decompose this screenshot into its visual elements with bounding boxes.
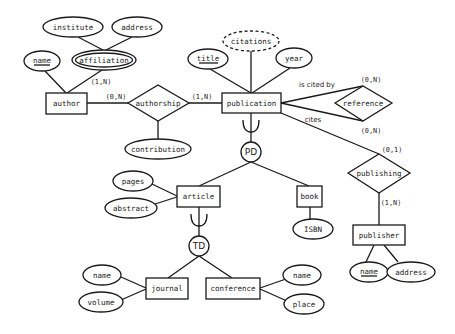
cardinality-publication-publishing: (0,1) — [382, 146, 402, 154]
entity-publication: publication — [222, 93, 281, 113]
attribute-publisher-address: address — [387, 262, 435, 282]
attribute-title-key: title — [188, 49, 228, 69]
connector-lines — [45, 37, 398, 301]
svg-text:publishing: publishing — [356, 169, 401, 178]
entity-article: article — [177, 186, 220, 207]
relationship-reference: reference — [335, 86, 392, 121]
attribute-journal-name: name — [83, 265, 121, 285]
entity-journal: journal — [146, 278, 188, 299]
svg-text:publication: publication — [227, 99, 277, 108]
attribute-affiliation-multivalued: affiliation — [72, 50, 136, 70]
role-label-cites: cites — [305, 116, 322, 124]
attribute-publisher-name-key: name — [350, 262, 388, 282]
svg-text:address: address — [121, 23, 153, 32]
svg-text:publisher: publisher — [359, 231, 400, 240]
svg-text:name: name — [293, 271, 312, 280]
relationship-authorship: authorship — [128, 85, 189, 121]
entity-author: author — [46, 93, 87, 114]
entity-conference: conference — [206, 278, 260, 299]
svg-text:pages: pages — [122, 177, 145, 186]
attribute-conference-name: name — [283, 265, 321, 285]
svg-text:address: address — [395, 268, 427, 277]
svg-text:citations: citations — [231, 37, 272, 46]
svg-text:ISBN: ISBN — [304, 225, 322, 234]
svg-text:place: place — [293, 300, 316, 309]
attribute-institute: institute — [43, 17, 103, 37]
svg-text:TD: TD — [192, 241, 205, 251]
attribute-affiliation-address: address — [112, 17, 162, 37]
svg-text:year: year — [285, 54, 304, 63]
svg-text:journal: journal — [151, 284, 183, 293]
attribute-author-name-key: name — [24, 51, 60, 71]
attribute-citations-derived: citations — [223, 31, 279, 51]
svg-text:name: name — [93, 271, 112, 280]
cardinality-reference-cited-by: (0,N) — [361, 76, 381, 84]
cardinality-author-authorship: (0,N) — [106, 93, 126, 101]
attribute-pages: pages — [113, 171, 153, 191]
svg-text:book: book — [300, 192, 319, 201]
entity-book: book — [297, 186, 322, 207]
svg-text:reference: reference — [343, 99, 384, 108]
svg-text:author: author — [53, 99, 81, 108]
svg-text:title: title — [197, 54, 220, 63]
attribute-volume: volume — [79, 292, 123, 312]
attribute-isbn: ISBN — [293, 219, 333, 239]
svg-text:conference: conference — [210, 284, 256, 293]
svg-text:name: name — [360, 267, 379, 276]
attribute-place: place — [284, 294, 324, 314]
svg-text:PD: PD — [245, 147, 257, 157]
svg-text:volume: volume — [87, 298, 115, 307]
cardinality-author-affiliation: (1,N) — [91, 78, 111, 86]
attribute-contribution: contribution — [125, 139, 191, 159]
generalization-td: TD — [189, 236, 209, 256]
relationship-publishing: publishing — [348, 154, 410, 193]
svg-text:name: name — [33, 56, 52, 65]
svg-text:abstract: abstract — [113, 204, 149, 213]
er-diagram: institute address affiliation name contr… — [0, 0, 455, 334]
svg-text:affiliation: affiliation — [79, 56, 129, 65]
attribute-abstract: abstract — [105, 198, 157, 218]
attribute-year: year — [276, 48, 312, 68]
cardinality-publication-authorship: (1,N) — [192, 93, 212, 101]
svg-text:article: article — [183, 192, 215, 201]
svg-text:authorship: authorship — [135, 99, 181, 108]
cardinality-publisher-publishing: (1,N) — [381, 199, 401, 207]
svg-text:contribution: contribution — [131, 145, 185, 154]
entity-publisher: publisher — [353, 225, 405, 245]
generalization-pd: PD — [241, 142, 261, 162]
cardinality-reference-cites: (0,N) — [361, 127, 381, 135]
role-label-is-cited-by: is cited by — [299, 81, 335, 89]
svg-text:institute: institute — [53, 23, 94, 32]
